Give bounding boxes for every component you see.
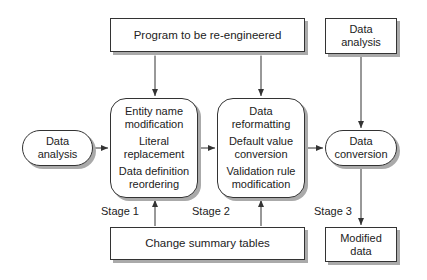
program-label: Program to be re-engineered xyxy=(134,29,282,42)
stage2-item: Validation rulemodification xyxy=(227,165,296,191)
stage1-box: Entity namemodification Literalreplaceme… xyxy=(110,98,198,198)
stage2-item: Default valueconversion xyxy=(229,135,293,161)
label-line: Data xyxy=(349,23,372,36)
label-line: analysis xyxy=(38,148,78,161)
stage1-item: Data definitionreordering xyxy=(119,165,189,191)
stage2-box: Datareformatting Default valueconversion… xyxy=(217,98,305,198)
label-line: Modified xyxy=(340,232,382,245)
stage1-label: Stage 1 xyxy=(101,205,139,217)
label-line: analysis xyxy=(341,36,381,49)
stage2-label: Stage 2 xyxy=(192,205,230,217)
data-analysis-left-oval: Data analysis xyxy=(22,130,93,166)
data-analysis-top-box: Data analysis xyxy=(325,18,397,54)
stage1-item: Literalreplacement xyxy=(124,135,185,161)
label-line: conversion xyxy=(334,148,387,161)
stage3-label: Stage 3 xyxy=(314,205,352,217)
change-summary-box: Change summary tables xyxy=(110,227,305,260)
label-line: Data xyxy=(349,135,372,148)
stage2-item: Datareformatting xyxy=(232,105,291,131)
label-line: Data xyxy=(46,135,69,148)
data-conversion-oval: Data conversion xyxy=(325,130,397,166)
change-summary-label: Change summary tables xyxy=(145,237,270,250)
stage1-item: Entity namemodification xyxy=(125,105,184,131)
label-line: data xyxy=(350,245,371,258)
program-box: Program to be re-engineered xyxy=(110,18,305,52)
modified-data-box: Modified data xyxy=(325,227,397,262)
